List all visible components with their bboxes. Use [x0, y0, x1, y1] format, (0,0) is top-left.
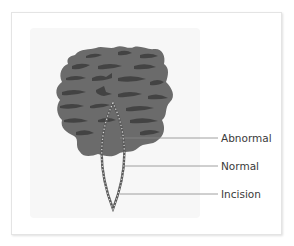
label-abnormal: Abnormal: [221, 132, 272, 144]
lesion-blob: [56, 46, 173, 156]
label-incision: Incision: [221, 188, 261, 200]
excisional-biopsy-diagram: [0, 0, 294, 246]
label-normal: Normal: [221, 160, 259, 172]
